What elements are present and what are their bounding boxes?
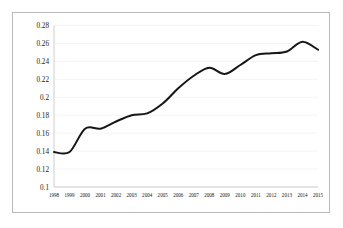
x-tick-label: 2009 [220, 192, 231, 198]
x-tick-label: 2001 [95, 192, 106, 198]
y-tick-label: 0.16 [36, 130, 49, 138]
x-tick-label: 2000 [80, 192, 91, 198]
x-tick-label: 1998 [49, 192, 60, 198]
x-axis-tick-labels: 1998199920002001200220032004200520062007… [49, 192, 324, 198]
x-tick-label: 2002 [111, 192, 122, 198]
x-tick-label: 2010 [235, 192, 246, 198]
y-tick-label: 0.18 [36, 112, 49, 120]
x-tick-label: 2015 [313, 192, 324, 198]
plot-area: 0.10.120.140.160.180.20.220.240.260.28 1… [13, 13, 331, 214]
x-tick-label: 2014 [297, 192, 308, 198]
x-tick-label: 2007 [189, 192, 200, 198]
gridlines [54, 26, 318, 188]
y-tick-label: 0.2 [40, 94, 49, 102]
line-chart-svg: 0.10.120.140.160.180.20.220.240.260.28 1… [13, 13, 331, 214]
chart-figure: 0.10.120.140.160.180.20.220.240.260.28 1… [12, 12, 330, 213]
x-tick-label: 1999 [64, 192, 75, 198]
x-tick-label: 2008 [204, 192, 215, 198]
y-tick-label: 0.14 [36, 148, 49, 156]
y-tick-label: 0.28 [36, 22, 49, 30]
y-tick-label: 0.1 [40, 184, 49, 192]
data-line-series-1 [54, 42, 318, 154]
x-tick-label: 2006 [173, 192, 184, 198]
axis-lines [54, 26, 318, 188]
y-axis-tick-labels: 0.10.120.140.160.180.20.220.240.260.28 [36, 22, 49, 192]
x-tick-label: 2004 [142, 192, 153, 198]
x-tick-label: 2003 [127, 192, 138, 198]
x-tick-label: 2005 [158, 192, 169, 198]
y-tick-label: 0.24 [36, 58, 49, 66]
x-tick-label: 2011 [251, 192, 261, 198]
data-series-layer [54, 42, 318, 154]
x-tick-label: 2013 [282, 192, 293, 198]
y-tick-label: 0.12 [36, 166, 49, 174]
x-tick-label: 2012 [266, 192, 277, 198]
y-tick-label: 0.26 [36, 40, 49, 48]
y-tick-label: 0.22 [36, 76, 49, 84]
